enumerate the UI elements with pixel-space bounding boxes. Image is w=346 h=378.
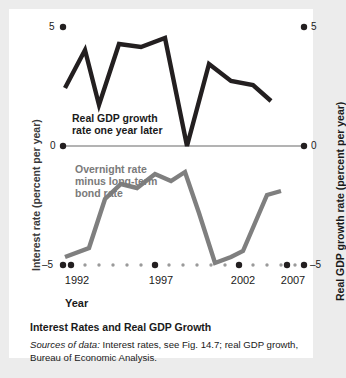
x-axis-major-dots xyxy=(68,262,290,268)
figure-source-note: Sources of data: Interest rates, see Fig… xyxy=(30,339,310,364)
right-tick-dot-5 xyxy=(301,24,307,30)
chart-svg xyxy=(9,9,313,309)
y-axis-right-title: Real GDP growth rate (percent per year) xyxy=(334,102,346,301)
source-lead: Sources of data: xyxy=(30,339,100,350)
left-tick-dot-0 xyxy=(60,143,66,149)
left-axis-label-0: 0 xyxy=(50,140,56,151)
x-tick-label-1992: 1992 xyxy=(65,274,89,286)
figure-caption-title: Interest Rates and Real GDP Growth xyxy=(30,321,211,333)
annotation-gdp-growth: Real GDP growth rate one year later xyxy=(72,112,162,136)
chart-plot-area: 5 0 –5 5 0 –5 1992 1997 2002 2007 Real G… xyxy=(9,9,313,309)
annotation-rate-spread: Overnight rate minus long-term bond rate xyxy=(75,163,157,199)
right-axis-label-0: 0 xyxy=(311,140,317,151)
x-tick-label-1997: 1997 xyxy=(149,274,173,286)
right-tick-dot-neg5 xyxy=(301,262,307,268)
left-tick-dot-5 xyxy=(60,24,66,30)
left-axis-label-5: 5 xyxy=(49,21,55,32)
x-tick-label-2002: 2002 xyxy=(231,274,255,286)
y-axis-left-title: Interest rate (percent per year) xyxy=(30,119,42,271)
x-axis-title: Year xyxy=(65,297,88,309)
right-tick-dot-0 xyxy=(301,143,307,149)
right-axis-label-neg5: –5 xyxy=(310,259,321,270)
left-axis-label-neg5: –5 xyxy=(42,259,53,270)
x-tick-label-2007: 2007 xyxy=(281,274,305,286)
x-axis-minor-dots xyxy=(83,263,296,266)
right-axis-label-5: 5 xyxy=(311,21,317,32)
figure-panel: 5 0 –5 5 0 –5 1992 1997 2002 2007 Real G… xyxy=(9,9,313,358)
left-tick-dot-neg5 xyxy=(60,262,66,268)
